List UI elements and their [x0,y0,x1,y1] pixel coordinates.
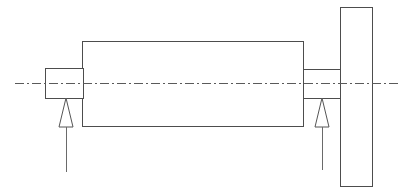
end-plate-rect [340,7,372,186]
engineering-drawing-canvas [0,0,410,195]
left-support-triangle-icon [59,98,73,127]
drawing-svg-root [0,0,410,195]
right-support-triangle-icon [315,98,329,127]
